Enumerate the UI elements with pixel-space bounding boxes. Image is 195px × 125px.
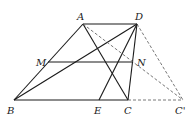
label-B: B <box>6 105 14 116</box>
label-M: M <box>35 57 47 68</box>
label-N: N <box>136 57 147 68</box>
label-A: A <box>76 11 84 22</box>
geometry-diagram: A D M N B E C C' <box>0 0 195 125</box>
label-C-prime: C' <box>175 105 185 116</box>
label-E: E <box>93 105 102 116</box>
label-C: C <box>124 105 132 116</box>
label-D: D <box>134 11 143 22</box>
